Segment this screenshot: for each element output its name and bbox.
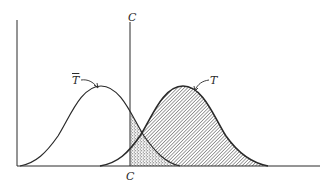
criterion-label-bottom: C xyxy=(126,171,134,182)
diagram-canvas xyxy=(0,0,335,188)
curve-label-t-bar: T xyxy=(72,75,79,86)
criterion-label-top: C xyxy=(128,12,136,23)
curve-label-t: T xyxy=(210,75,217,86)
